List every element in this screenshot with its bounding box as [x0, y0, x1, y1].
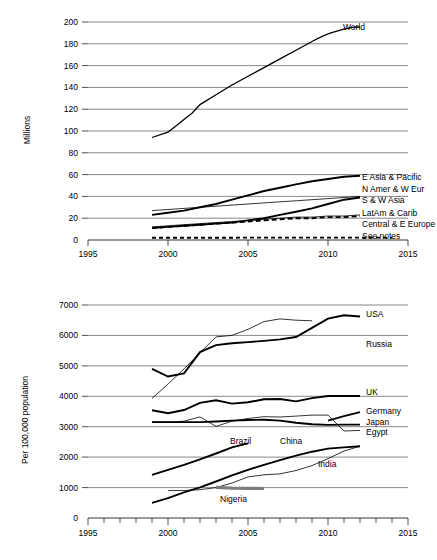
- series-line-china: [152, 446, 360, 503]
- series-label-central-e-europe: Central & E Europe: [362, 219, 436, 229]
- top-xtick-2015: 2015: [399, 249, 418, 259]
- series-label-s-w-asia: S & W Asia: [362, 195, 405, 205]
- top-gridlines: [88, 22, 408, 218]
- top-ytick-140: 140: [64, 82, 78, 92]
- series-line-nigeria: [216, 487, 264, 488]
- top-series-labels: World E Asia & Pacific N Amer & W Eur S …: [343, 22, 436, 241]
- top-ytick-180: 180: [64, 39, 78, 49]
- bottom-y-tickmarks: [82, 305, 88, 488]
- bottom-ytick-7000: 7000: [59, 300, 78, 310]
- bottom-ytick-5000: 5000: [59, 361, 78, 371]
- top-ytick-60: 60: [69, 170, 79, 180]
- series-line-usa: [152, 315, 360, 376]
- series-label-india: India: [318, 459, 337, 469]
- series-line-brazil: [152, 443, 248, 474]
- series-label-brazil: Brazil: [230, 436, 251, 446]
- top-xtick-2005: 2005: [239, 249, 258, 259]
- series-label-see-notes: See notes: [362, 231, 400, 241]
- series-label-germany: Germany: [366, 406, 402, 416]
- top-xtick-2010: 2010: [319, 249, 338, 259]
- series-label-latam-carib: LatAm & Carib: [362, 208, 418, 218]
- series-label-nigeria: Nigeria: [220, 494, 247, 504]
- bottom-panel-svg: Per 100,000 population 7000 6000 5000 40…: [0, 275, 437, 560]
- bottom-series-labels: USA Russia UK Germany Japan Egypt Brazil…: [220, 309, 402, 504]
- top-ytick-20: 20: [69, 213, 79, 223]
- series-label-e-asia-pacific: E Asia & Pacific: [362, 172, 422, 182]
- bottom-xtick-2005: 2005: [239, 528, 258, 538]
- series-line-s-w-asia: [152, 198, 360, 229]
- series-label-egypt: Egypt: [366, 427, 388, 437]
- bottom-x-tickmarks: [88, 518, 408, 525]
- top-ytick-40: 40: [69, 191, 79, 201]
- top-ytick-100: 100: [64, 126, 78, 136]
- top-xtick-1995: 1995: [79, 249, 98, 259]
- series-line-e-asia-pacific: [152, 176, 360, 215]
- top-ytick-160: 160: [64, 61, 78, 71]
- series-label-uk: UK: [366, 387, 378, 397]
- top-ytick-200: 200: [64, 17, 78, 27]
- series-label-usa: USA: [366, 309, 384, 319]
- top-ytick-0: 0: [73, 235, 78, 245]
- bottom-xtick-2015: 2015: [399, 528, 418, 538]
- top-x-ticklabels: 1995 2000 2005 2010 2015: [79, 249, 418, 259]
- top-panel-svg: Millions 20: [0, 0, 437, 280]
- bottom-ytick-0: 0: [73, 513, 78, 523]
- series-label-n-amer-w-eur: N Amer & W Eur: [362, 184, 425, 194]
- bottom-ytick-3000: 3000: [59, 422, 78, 432]
- top-xtick-2000: 2000: [159, 249, 178, 259]
- top-y-ticklabels: 200 180 160 140 120 100 80 60 40 20 0: [64, 17, 78, 245]
- series-line-uk: [152, 396, 360, 413]
- series-label-japan: Japan: [366, 417, 389, 427]
- top-ytick-80: 80: [69, 148, 79, 158]
- bottom-ytick-4000: 4000: [59, 391, 78, 401]
- bottom-panel: Per 100,000 population 7000 6000 5000 40…: [0, 275, 437, 560]
- series-label-world: World: [343, 22, 365, 32]
- bottom-y-axis-title: Per 100,000 population: [20, 376, 30, 464]
- bottom-xtick-2000: 2000: [159, 528, 178, 538]
- series-line-russia: [152, 319, 312, 399]
- top-ytick-120: 120: [64, 104, 78, 114]
- top-y-axis-title: Millions: [22, 116, 32, 144]
- bottom-xtick-1995: 1995: [79, 528, 98, 538]
- bottom-x-ticklabels: 1995 2000 2005 2010 2015: [79, 528, 418, 538]
- bottom-ytick-2000: 2000: [59, 452, 78, 462]
- bottom-y-ticklabels: 7000 6000 5000 4000 3000 2000 1000 0: [59, 300, 78, 523]
- bottom-ytick-1000: 1000: [59, 483, 78, 493]
- series-label-russia: Russia: [366, 339, 392, 349]
- series-label-china: China: [280, 436, 302, 446]
- top-y-tickmarks: [82, 22, 88, 218]
- top-x-tickmarks: [88, 240, 408, 246]
- top-panel: Millions 20: [0, 0, 437, 280]
- bottom-xtick-2010: 2010: [319, 528, 338, 538]
- bottom-ytick-6000: 6000: [59, 330, 78, 340]
